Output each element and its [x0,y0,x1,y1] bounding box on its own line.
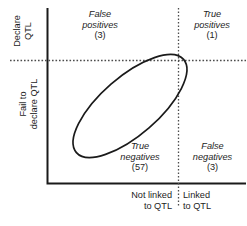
quadrant-label-true-negatives-line2: negatives [104,152,176,163]
quadrant-label-true-positives: True positives (1) [180,9,244,41]
x-axis-label-linked-to-qtl-line1: Linked [183,190,245,201]
qtl-confusion-diagram: Declare QTL Fail to declare QTL False po… [0,0,247,226]
y-axis-label-fail-to-declare-qtl: Fail to declare QTL [18,58,44,150]
quadrant-count-true-positives: (1) [180,30,244,41]
x-axis-label-not-linked-to-qtl-line1: Not linked [104,190,172,201]
quadrant-label-false-positives-line2: positives [58,20,142,31]
y-axis-label-declare-qtl-line2: QTL [23,0,34,62]
y-axis-label-fail-to-declare-qtl-line2: declare QTL [29,58,40,150]
quadrant-label-false-positives: False positives (3) [58,9,142,41]
quadrant-label-true-positives-line2: positives [180,20,244,31]
quadrant-label-true-negatives: True negatives (57) [104,141,176,173]
y-axis-label-fail-to-declare-qtl-line1: Fail to [18,58,29,150]
y-axis-label-declare-qtl-line1: Declare [12,0,23,62]
quadrant-label-false-positives-line1: False [58,9,142,20]
x-axis-label-linked-to-qtl: Linked to QTL [183,190,245,212]
quadrant-label-false-negatives-line2: negatives [181,152,244,163]
quadrant-label-true-negatives-line1: True [104,141,176,152]
x-axis-label-linked-to-qtl-line2: to QTL [183,201,245,212]
quadrant-label-false-negatives-line1: False [181,141,244,152]
x-axis-label-not-linked-to-qtl-line2: to QTL [104,201,172,212]
quadrant-count-true-negatives: (57) [104,162,176,173]
quadrant-label-true-positives-line1: True [180,9,244,20]
quadrant-count-false-positives: (3) [58,30,142,41]
x-axis-label-not-linked-to-qtl: Not linked to QTL [104,190,172,212]
quadrant-label-false-negatives: False negatives (3) [181,141,244,173]
quadrant-count-false-negatives: (3) [181,162,244,173]
y-axis-label-declare-qtl: Declare QTL [12,0,38,62]
